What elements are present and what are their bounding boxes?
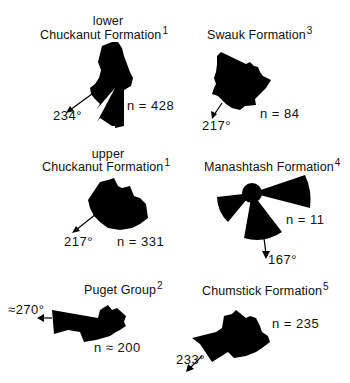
direction-label: 233° [176, 352, 205, 367]
sample-count-label: n = 235 [272, 316, 319, 331]
